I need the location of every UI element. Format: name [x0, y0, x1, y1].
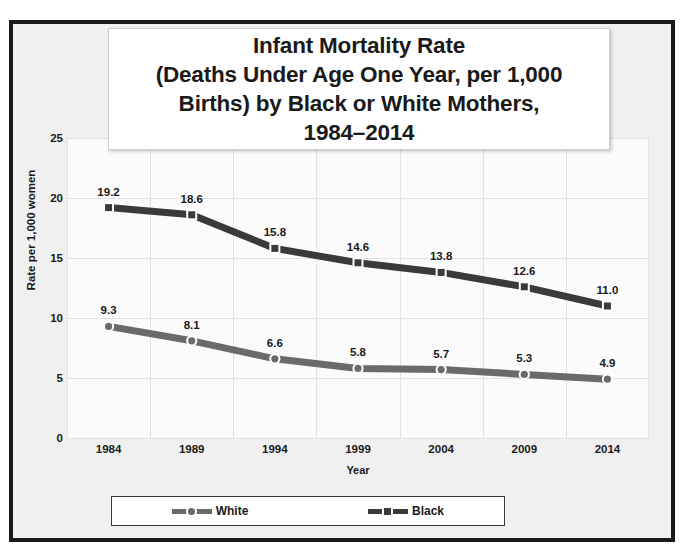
gridline-horizontal: [67, 438, 649, 439]
y-axis-tick-label: 0: [17, 432, 63, 444]
x-axis-tick-label: 1989: [152, 443, 232, 455]
chart-frame: 9.38.16.65.85.75.34.919.218.615.814.613.…: [9, 20, 675, 542]
legend-swatch-white-icon: [172, 505, 212, 517]
legend-entry-black[interactable]: Black: [308, 504, 504, 518]
x-axis-tick-label: 2009: [484, 443, 564, 455]
y-axis-tick-label: 10: [17, 312, 63, 324]
data-point-marker: [603, 302, 612, 311]
series-lines: [67, 138, 649, 438]
data-point-marker: [270, 244, 279, 253]
data-point-marker: [270, 354, 279, 363]
x-axis-tick-label: 1994: [235, 443, 315, 455]
y-axis-tick-label: 5: [17, 372, 63, 384]
data-point-marker: [104, 322, 113, 331]
legend-entry-white[interactable]: White: [112, 504, 308, 518]
y-axis-title: Rate per 1,000 women: [25, 160, 37, 300]
chart-title-box: Infant Mortality Rate (Deaths Under Age …: [108, 28, 610, 150]
legend-label: White: [216, 504, 249, 518]
x-axis-title: Year: [67, 464, 649, 476]
x-axis-tick-label: 1999: [318, 443, 398, 455]
x-axis-tick-label: 1984: [69, 443, 149, 455]
data-point-marker: [354, 258, 363, 267]
series-line-black: [109, 208, 608, 306]
legend-marker-square-icon: [382, 506, 393, 517]
chart-page: 9.38.16.65.85.75.34.919.218.615.814.613.…: [0, 0, 685, 557]
data-point-marker: [437, 365, 446, 374]
legend-swatch-black-icon: [368, 505, 408, 517]
chart-legend: WhiteBlack: [111, 496, 505, 526]
chart-title: Infant Mortality Rate (Deaths Under Age …: [150, 31, 569, 148]
data-point-marker: [187, 210, 196, 219]
plot-area: 9.38.16.65.85.75.34.919.218.615.814.613.…: [67, 138, 649, 438]
y-axis-tick-label: 20: [17, 192, 63, 204]
legend-marker-circle-icon: [186, 506, 197, 517]
data-point-marker: [520, 370, 529, 379]
data-point-marker: [520, 282, 529, 291]
data-point-marker: [187, 336, 196, 345]
x-axis-tick-label: 2014: [567, 443, 647, 455]
data-point-marker: [104, 203, 113, 212]
legend-label: Black: [412, 504, 444, 518]
y-axis-tick-label: 15: [17, 252, 63, 264]
data-point-marker: [437, 268, 446, 277]
x-axis-ticks: 1984198919941999200420092014: [67, 443, 649, 463]
y-axis-tick-label: 25: [17, 132, 63, 144]
x-axis-tick-label: 2004: [401, 443, 481, 455]
y-axis-ticks: 0510152025: [13, 138, 63, 438]
data-point-marker: [603, 375, 612, 384]
data-point-marker: [353, 364, 362, 373]
